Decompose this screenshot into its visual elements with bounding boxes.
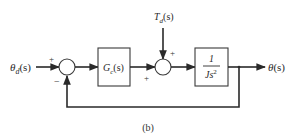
sum2-plus-top-sign: +: [170, 48, 175, 58]
summing-junction-1: [59, 59, 75, 75]
sum1-plus-sign: +: [49, 54, 54, 64]
plant-numerator: 1: [209, 53, 214, 64]
block-diagram: θd(s) + − Gc(s) Td(s) + + 1 Js2 θ(s) (b): [0, 0, 298, 137]
sum1-minus-sign: −: [54, 76, 60, 87]
input-label: θd(s): [10, 61, 31, 76]
branch-point: [238, 66, 241, 69]
figure-caption: (b): [142, 122, 154, 134]
output-label: θ(s): [268, 61, 285, 74]
sum2-plus-left-sign: +: [144, 73, 149, 83]
summing-junction-2: [155, 59, 171, 75]
disturbance-label: Td(s): [154, 11, 174, 25]
